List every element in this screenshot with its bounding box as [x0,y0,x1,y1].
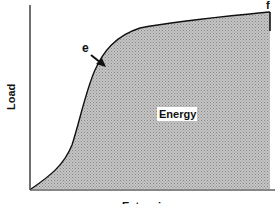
label-e: e [82,41,89,55]
x-axis-label: Extension [122,200,175,204]
energy-area [31,12,270,189]
y-axis-label: Load [5,84,17,110]
label-energy: Energy [159,108,197,120]
label-f: f [266,0,270,11]
load-extension-diagram: e f Energy Load Extension [0,0,275,204]
